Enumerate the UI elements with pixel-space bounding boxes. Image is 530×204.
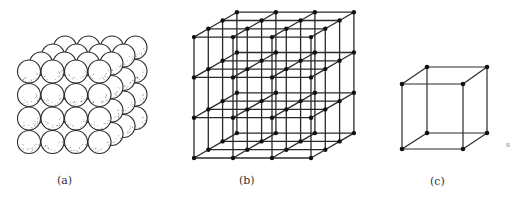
lattice-point	[245, 148, 249, 152]
panel-b-label: (b)	[239, 174, 255, 187]
sphere	[41, 107, 64, 130]
sphere	[41, 84, 64, 107]
lattice-point	[284, 107, 288, 111]
sphere	[65, 84, 88, 107]
lattice-point	[245, 67, 249, 71]
lattice-point	[400, 82, 405, 87]
lattice-point	[352, 131, 356, 135]
unit-cell-diagram	[400, 65, 490, 152]
sphere	[41, 60, 64, 83]
lattice-point	[425, 65, 430, 70]
lattice-point	[352, 10, 356, 14]
lattice-point	[274, 131, 278, 135]
lattice-point	[274, 10, 278, 14]
lattice-point	[461, 147, 466, 152]
lattice-point	[309, 116, 313, 120]
lattice-point	[337, 18, 341, 22]
lattice-point	[231, 35, 235, 39]
lattice-point	[270, 156, 274, 160]
lattice-point	[298, 99, 302, 103]
lattice-point	[323, 107, 327, 111]
lattice-point	[192, 35, 196, 39]
lattice-point	[192, 116, 196, 120]
lattice-point	[298, 18, 302, 22]
lattice-point	[231, 156, 235, 160]
lattice-point	[206, 67, 210, 71]
lattice-point	[220, 18, 224, 22]
lattice-point	[231, 75, 235, 79]
cubic-lattice-diagram	[192, 10, 356, 160]
lattice-point	[220, 99, 224, 103]
lattice-point	[309, 75, 313, 79]
lattice-point	[235, 50, 239, 54]
lattice-point	[270, 35, 274, 39]
lattice-point	[313, 50, 317, 54]
panel-c-label: (c)	[430, 175, 445, 188]
sphere	[41, 131, 64, 154]
stray-mark: s	[506, 140, 510, 149]
sphere	[65, 60, 88, 83]
lattice-point	[192, 75, 196, 79]
lattice-point	[352, 50, 356, 54]
lattice-point	[259, 59, 263, 63]
sphere	[18, 60, 41, 83]
lattice-point	[235, 131, 239, 135]
lattice-point	[220, 59, 224, 63]
lattice-point	[206, 27, 210, 31]
lattice-point	[309, 35, 313, 39]
lattice-point	[313, 10, 317, 14]
lattice-point	[192, 156, 196, 160]
lattice-point	[274, 91, 278, 95]
lattice-point	[284, 27, 288, 31]
lattice-point	[485, 65, 490, 70]
lattice-point	[400, 147, 405, 152]
lattice-point	[313, 131, 317, 135]
sphere	[88, 131, 111, 154]
lattice-point	[231, 116, 235, 120]
lattice-point	[235, 91, 239, 95]
lattice-point	[259, 18, 263, 22]
lattice-point	[259, 139, 263, 143]
lattice-point	[259, 99, 263, 103]
lattice-point	[352, 91, 356, 95]
lattice-point	[270, 116, 274, 120]
lattice-point	[270, 75, 274, 79]
lattice-point	[313, 91, 317, 95]
sphere	[65, 131, 88, 154]
sphere	[18, 84, 41, 107]
lattice-point	[337, 139, 341, 143]
lattice-point	[461, 82, 466, 87]
sphere	[88, 60, 111, 83]
lattice-point	[220, 139, 224, 143]
lattice-point	[235, 10, 239, 14]
lattice-point	[298, 139, 302, 143]
lattice-point	[337, 99, 341, 103]
lattice-point	[425, 131, 430, 136]
lattice-point	[274, 50, 278, 54]
lattice-point	[323, 67, 327, 71]
lattice-point	[284, 67, 288, 71]
lattice-point	[206, 107, 210, 111]
lattice-point	[206, 148, 210, 152]
panel-a-label: (a)	[57, 174, 72, 187]
sphere	[18, 107, 41, 130]
lattice-point	[485, 131, 490, 136]
lattice-point	[298, 59, 302, 63]
lattice-point	[309, 156, 313, 160]
crystal-lattice-figure	[0, 0, 530, 204]
lattice-point	[337, 59, 341, 63]
lattice-point	[245, 27, 249, 31]
sphere	[65, 107, 88, 130]
lattice-point	[323, 148, 327, 152]
sphere	[88, 107, 111, 130]
sphere-packing-diagram	[18, 36, 148, 154]
lattice-point	[245, 107, 249, 111]
sphere	[88, 84, 111, 107]
lattice-point	[284, 148, 288, 152]
sphere	[18, 131, 41, 154]
lattice-point	[323, 27, 327, 31]
